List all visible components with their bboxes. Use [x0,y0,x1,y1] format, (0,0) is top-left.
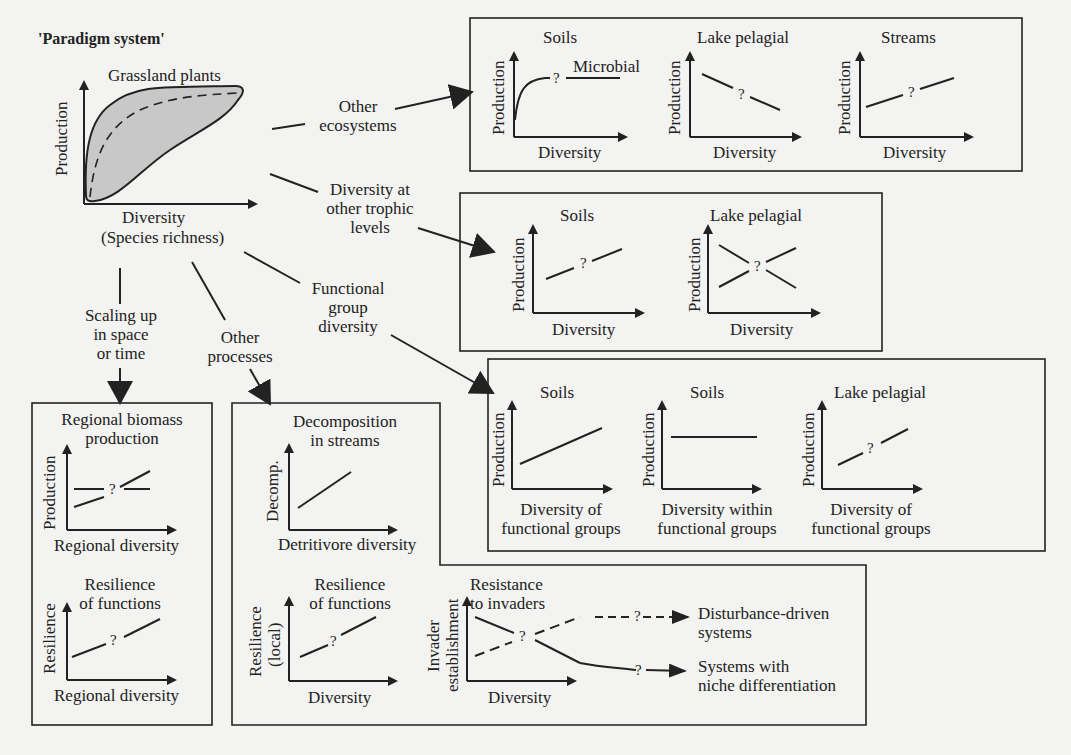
panel-lake-pelagial-title: Lake pelagial [834,383,926,402]
question-mark: ? [330,633,337,650]
question-mark: ? [738,86,745,103]
paradigm-system-title: 'Paradigm system' [38,29,165,48]
panel-lake-pelagial-title: Lake pelagial [697,28,789,47]
panel-soils-title: Soils [690,383,724,402]
branch-functional-group: Functional group diversity [300,279,396,336]
question-mark: ? [754,258,761,275]
niche-differentiation-systems-label: Systems with niche differentiation [698,657,836,695]
x-axis-label: Diversity [730,320,793,339]
paradigm-x-axis-label: Diversity [122,208,185,227]
x-axis-label: Diversity [488,688,551,707]
panel-local-resilience-title: Resilience of functions [295,575,405,613]
y-axis-label: Production [490,60,507,135]
branch-trophic-levels: Diversity at other trophic levels [320,180,420,237]
y-axis-label: Invader [425,620,442,672]
branch-other-processes: Other processes [200,328,280,366]
question-mark: ? [109,481,116,498]
x-axis-label: Diversity [552,320,615,339]
y-axis-label: Production [666,60,683,135]
x-axis-label: Diversity of functional groups [496,500,626,538]
y-axis-sublabel: (local) [266,623,283,667]
question-mark: ? [519,628,526,645]
x-axis-label: Regional diversity [54,536,179,555]
y-axis-label: Production [640,412,657,487]
panel-lake-pelagial-title: Lake pelagial [710,206,802,225]
diversity-function-diagram: 'Paradigm system' Grassland plants Produ… [0,0,1071,755]
question-mark: ? [867,440,874,457]
panel-soils-title: Soils [543,28,577,47]
panel-regional-resilience-title: Resilience of functions [70,575,170,613]
question-mark: ? [634,608,641,625]
y-axis-label: Resilience [247,606,264,677]
panel-resistance-title: Resistance to invaders [470,575,570,613]
x-axis-label: Diversity of functional groups [806,500,936,538]
question-mark: ? [580,255,587,272]
x-axis-label: Diversity [713,143,776,162]
x-axis-label: Regional diversity [54,686,179,705]
x-axis-label: Diversity [308,688,371,707]
panel-soils-annotation: Microbial [573,57,640,76]
y-axis-label: Production [686,237,703,312]
question-mark: ? [110,632,117,649]
x-axis-label: Diversity [883,143,946,162]
paradigm-heading: Grassland plants [108,66,221,85]
question-mark: ? [635,662,642,679]
y-axis-label: Decomp. [264,460,281,522]
paradigm-x-axis-sublabel: (Species richness) [101,228,224,247]
y-axis-label: Resilience [41,603,58,674]
panel-soils-title: Soils [540,383,574,402]
diagram-lines [0,0,1071,755]
branch-scaling-up: Scaling up in space or time [76,306,166,363]
question-mark: ? [553,70,560,87]
y-axis-sublabel: establishment [444,599,461,692]
panel-decomposition-title: Decomposition in streams [285,412,405,450]
panel-streams-title: Streams [881,28,936,47]
question-mark: ? [908,84,915,101]
y-axis-label: Production [836,60,853,135]
branch-other-ecosystems: Other ecosystems [308,97,408,135]
paradigm-y-axis-label: Production [53,101,70,176]
x-axis-label: Diversity [538,143,601,162]
y-axis-label: Production [490,412,507,487]
panel-soils-title: Soils [560,206,594,225]
x-axis-label: Detritivore diversity [278,535,416,554]
y-axis-label: Production [510,237,527,312]
paradigm-chart [84,82,256,204]
disturbance-driven-systems-label: Disturbance-driven systems [698,604,829,642]
panel-regional-biomass-title: Regional biomass production [52,410,192,448]
y-axis-label: Production [800,412,817,487]
x-axis-label: Diversity within functional groups [652,500,782,538]
y-axis-label: Production [41,455,58,530]
